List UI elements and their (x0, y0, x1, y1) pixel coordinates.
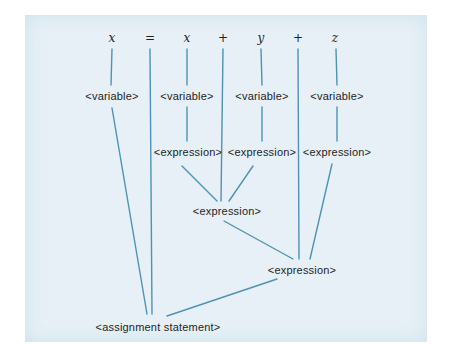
token-y: y (258, 32, 265, 44)
node-expression-1: <expression> (154, 147, 222, 158)
token-x2: x (184, 32, 191, 44)
node-expression-center: <expression> (193, 206, 261, 217)
token-z: z (332, 32, 338, 44)
node-assignment-statement: <assignment statement> (96, 322, 221, 333)
node-expression-3: <expression> (303, 147, 371, 158)
node-variable-2: <variable> (160, 91, 213, 102)
figure-panel (25, 15, 427, 342)
node-expression-2: <expression> (228, 147, 296, 158)
token-plus1: + (218, 32, 228, 44)
parse-tree-figure: x=x+y+z<variable><variable><variable><va… (0, 0, 449, 361)
token-plus2: + (293, 32, 303, 44)
node-expression-right: <expression> (268, 265, 336, 276)
node-variable-1: <variable> (85, 91, 138, 102)
node-variable-3: <variable> (235, 91, 288, 102)
token-eq: = (145, 32, 155, 44)
token-x1: x (109, 32, 116, 44)
node-variable-4: <variable> (310, 91, 363, 102)
